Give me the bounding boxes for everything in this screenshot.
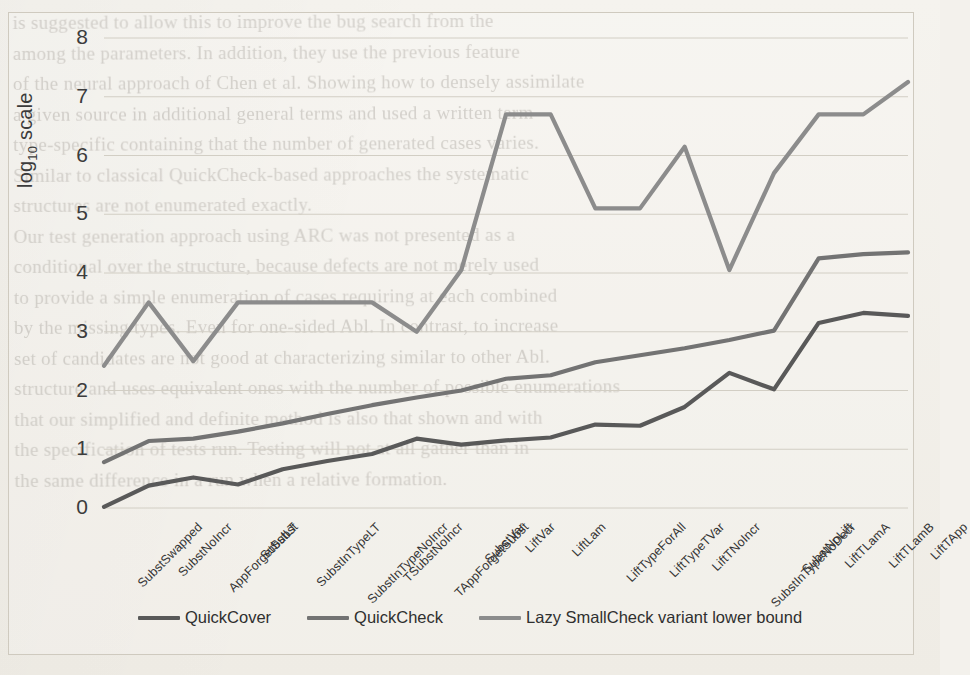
legend-item[interactable]: Lazy SmallCheck variant lower bound	[479, 608, 802, 627]
y-axis-label: log10 scale	[14, 38, 40, 188]
legend-item[interactable]: QuickCover	[138, 608, 271, 627]
y-axis-tick-label: 8	[58, 25, 88, 49]
legend-swatch-icon	[307, 616, 349, 620]
legend-swatch-icon	[138, 616, 180, 620]
data-series-group	[104, 82, 908, 507]
y-axis-tick-label: 1	[58, 436, 88, 460]
legend-item[interactable]: QuickCheck	[307, 608, 443, 627]
y-axis-tick-label: 0	[58, 495, 88, 519]
y-axis-tick-label: 4	[58, 260, 88, 284]
data-series-line	[104, 313, 908, 507]
y-axis-label-base: log	[14, 161, 36, 188]
y-axis-label-tail: scale	[14, 92, 36, 145]
data-series-line	[104, 252, 908, 462]
y-axis-label-subscript: 10	[25, 146, 40, 161]
y-axis-tick-label: 7	[58, 84, 88, 108]
y-axis-tick-label: 6	[58, 143, 88, 167]
y-axis-tick-label: 2	[58, 378, 88, 402]
y-axis-tick-label: 3	[58, 319, 88, 343]
data-series-line	[104, 82, 908, 366]
legend-swatch-icon	[479, 616, 521, 620]
chart-legend: QuickCoverQuickCheckLazy SmallCheck vari…	[0, 608, 940, 627]
legend-item-label: QuickCover	[185, 608, 271, 627]
legend-item-label: QuickCheck	[354, 608, 443, 627]
gridline-group	[104, 38, 908, 508]
y-axis-tick-label: 5	[58, 201, 88, 225]
legend-item-label: Lazy SmallCheck variant lower bound	[526, 608, 802, 627]
